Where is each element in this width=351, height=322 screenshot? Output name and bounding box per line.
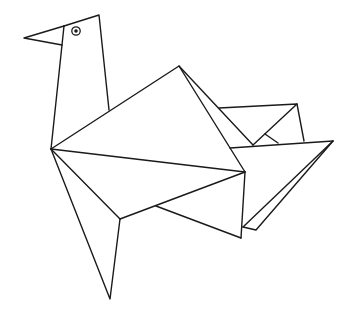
leg (51, 149, 120, 299)
tail (230, 141, 333, 238)
neck (51, 15, 109, 149)
eye-icon (72, 27, 80, 35)
wing (51, 66, 253, 172)
beak (24, 26, 64, 45)
drawing-canvas: Origami turkey line drawing (0, 0, 351, 322)
origami-turkey-illustration (0, 0, 351, 322)
back-fold (219, 104, 304, 145)
